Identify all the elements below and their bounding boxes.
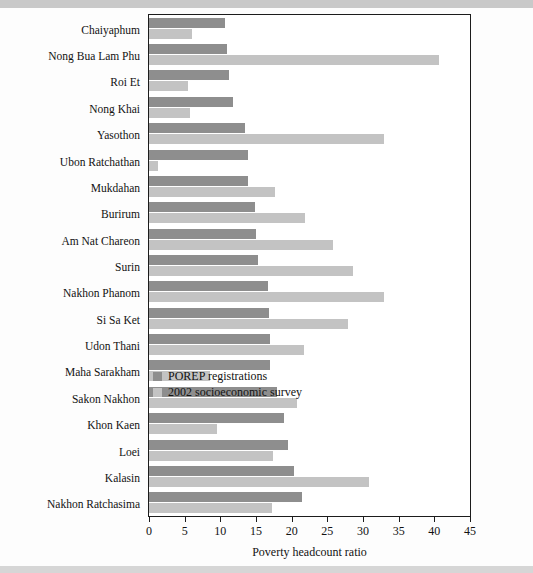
bar-survey <box>149 345 304 355</box>
bar-group <box>149 492 470 513</box>
bar-porep <box>149 202 255 212</box>
bar-group <box>149 255 470 276</box>
bar-survey <box>149 134 384 144</box>
bar-survey <box>149 213 305 223</box>
bar-porep <box>149 440 288 450</box>
category-label: Kalasin <box>0 472 140 484</box>
bar-survey <box>149 108 190 118</box>
bar-survey <box>149 292 384 302</box>
x-axis-tick-mark <box>327 517 328 522</box>
bar-porep <box>149 255 258 265</box>
x-axis-tick-mark <box>149 517 150 522</box>
bar-survey <box>149 187 275 197</box>
x-axis-title: Poverty headcount ratio <box>148 545 471 560</box>
category-label: Mukdahan <box>0 182 140 194</box>
x-axis-tick-label: 10 <box>205 524 235 539</box>
x-axis-tick-label: 5 <box>170 524 200 539</box>
figure-root: ChaiyaphumNong Bua Lam PhuRoi EtNong Kha… <box>0 0 533 573</box>
x-axis-tick-label: 25 <box>312 524 342 539</box>
bar-survey <box>149 240 333 250</box>
bar-survey <box>149 477 369 487</box>
bar-group <box>149 150 470 171</box>
x-axis-tick-label: 45 <box>455 524 485 539</box>
bar-survey <box>149 319 348 329</box>
category-label: Sakon Nakhon <box>0 393 140 405</box>
category-label: Nong Bua Lam Phu <box>0 50 140 62</box>
category-label: Ubon Ratchathan <box>0 156 140 168</box>
bar-porep <box>149 466 294 476</box>
legend-entry-survey: 2002 socioeconomic survey <box>153 385 319 400</box>
bar-group <box>149 413 470 434</box>
bar-porep <box>149 150 248 160</box>
bar-group <box>149 97 470 118</box>
bar-group <box>149 44 470 65</box>
x-axis-tick-mark <box>256 517 257 522</box>
legend-label-porep: POREP registrations <box>168 369 267 384</box>
bar-group <box>149 440 470 461</box>
bar-group <box>149 70 470 91</box>
category-axis-labels: ChaiyaphumNong Bua Lam PhuRoi EtNong Kha… <box>0 14 144 517</box>
bar-survey <box>149 503 272 513</box>
bar-survey <box>149 266 353 276</box>
bar-group <box>149 176 470 197</box>
bar-group <box>149 18 470 39</box>
bar-porep <box>149 97 233 107</box>
bar-porep <box>149 176 248 186</box>
x-axis-tick-label: 15 <box>241 524 271 539</box>
category-label: Loei <box>0 446 140 458</box>
bar-group <box>149 229 470 250</box>
legend-swatch-porep-icon <box>153 372 162 381</box>
bar-porep <box>149 18 225 28</box>
x-axis-tick-label: 20 <box>277 524 307 539</box>
category-label: Yasothon <box>0 129 140 141</box>
x-axis-tick-mark <box>220 517 221 522</box>
legend-swatch-survey-icon <box>153 388 162 397</box>
x-axis-tick-mark <box>434 517 435 522</box>
bar-porep <box>149 44 227 54</box>
category-label: Nong Khai <box>0 103 140 115</box>
bar-group <box>149 334 470 355</box>
x-axis-tick-label: 40 <box>419 524 449 539</box>
bar-survey <box>149 55 439 65</box>
bar-group <box>149 202 470 223</box>
bar-survey <box>149 424 217 434</box>
page-top-band <box>0 0 533 8</box>
x-axis-tick-mark <box>470 517 471 522</box>
bar-survey <box>149 161 158 171</box>
bar-porep <box>149 123 245 133</box>
legend-label-survey: 2002 socioeconomic survey <box>168 385 302 400</box>
category-label: Nakhon Ratchasima <box>0 498 140 510</box>
chart-plot-area <box>148 14 471 517</box>
bar-group <box>149 308 470 329</box>
category-label: Udon Thani <box>0 340 140 352</box>
bar-porep <box>149 281 268 291</box>
category-label: Chaiyaphum <box>0 24 140 36</box>
category-label: Maha Sarakham <box>0 366 140 378</box>
x-axis-tick-mark <box>292 517 293 522</box>
x-axis-tick-mark <box>185 517 186 522</box>
bar-group <box>149 123 470 144</box>
x-axis-tick-label: 35 <box>384 524 414 539</box>
category-label: Am Nat Chareon <box>0 235 140 247</box>
bar-porep <box>149 70 229 80</box>
bar-survey <box>149 81 188 91</box>
bar-survey <box>149 451 273 461</box>
category-label: Roi Et <box>0 76 140 88</box>
x-axis-tick-mark <box>363 517 364 522</box>
chart-legend: POREP registrations 2002 socioeconomic s… <box>153 369 319 401</box>
bar-porep <box>149 308 269 318</box>
bar-porep <box>149 229 256 239</box>
x-axis-tick-label: 30 <box>348 524 378 539</box>
page-bottom-band <box>0 566 533 573</box>
category-label: Burirum <box>0 208 140 220</box>
category-label: Surin <box>0 261 140 273</box>
x-axis-tick-label: 0 <box>134 524 164 539</box>
legend-entry-porep: POREP registrations <box>153 369 319 384</box>
bar-group <box>149 466 470 487</box>
bar-porep <box>149 492 302 502</box>
bar-porep <box>149 413 284 423</box>
bar-group <box>149 281 470 302</box>
category-label: Khon Kaen <box>0 419 140 431</box>
category-label: Nakhon Phanom <box>0 287 140 299</box>
x-axis-tick-mark <box>399 517 400 522</box>
